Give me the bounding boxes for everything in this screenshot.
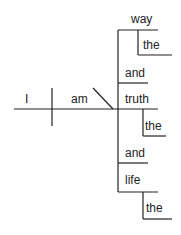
complement-life: life [125,173,140,187]
modifier-the-2: the [145,119,162,133]
complement-truth: truth [125,92,149,106]
complement-way: way [131,12,152,26]
complement-slash [93,88,113,109]
conjunction-and-1: and [125,66,145,80]
conjunction-and-2: and [125,146,145,160]
diagram-lines [0,0,181,235]
subject-word: I [25,92,28,106]
modifier-the-1: the [143,38,160,52]
verb-word: am [71,92,88,106]
modifier-the-3: the [146,201,163,215]
